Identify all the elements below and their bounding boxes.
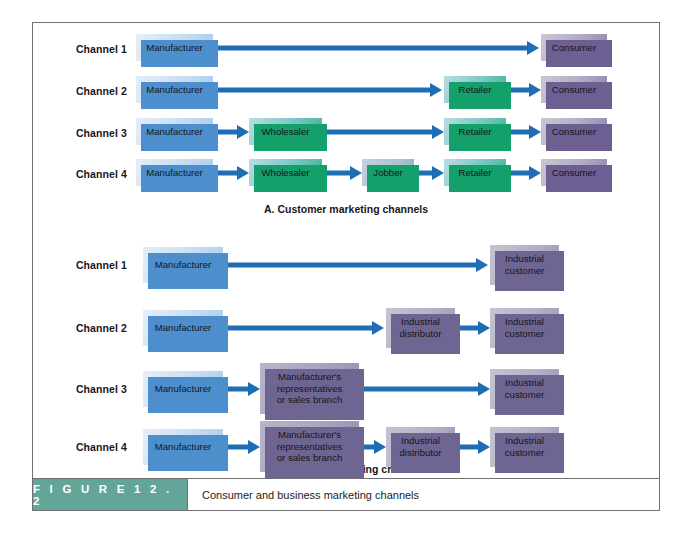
arrow-head xyxy=(430,83,442,97)
arrow-shaft xyxy=(223,326,373,331)
node-label-line1: Industrial xyxy=(401,316,440,328)
node-manufacturers-representatives: Manufacturer's representatives or sales … xyxy=(260,363,359,414)
node-industrial-distributor: Industrial distributor xyxy=(386,427,455,467)
node-industrial-customer: Industrial customer xyxy=(490,308,559,348)
node-manufacturer: Manufacturer xyxy=(143,310,223,346)
arrow-head xyxy=(237,125,249,139)
arrow-head xyxy=(478,321,490,335)
arrow-retailer-to-consumer xyxy=(506,83,541,97)
node-label-line2: customer xyxy=(505,447,544,459)
figure-number-badge: F I G U R E 1 2 . 2 xyxy=(33,479,188,510)
arrow-shaft xyxy=(213,46,528,51)
node-manufacturer: Manufacturer xyxy=(143,371,223,407)
node-label: Retailer xyxy=(458,126,491,138)
arrow-shaft xyxy=(322,130,433,135)
node-wholesaler: Wholesaler xyxy=(249,118,322,145)
node-industrial-distributor: Industrial distributor xyxy=(386,308,455,348)
node-jobber: Jobber xyxy=(362,159,414,186)
arrow-head xyxy=(478,382,490,396)
arrow-shaft xyxy=(213,88,431,93)
node-label: Manufacturer xyxy=(146,126,203,138)
arrow-shaft xyxy=(359,387,479,392)
arrow-head xyxy=(432,166,444,180)
node-label-line1: Manufacturer's xyxy=(278,429,341,441)
channel-label: Channel 2 xyxy=(51,71,127,111)
node-consumer: Consumer xyxy=(541,34,607,61)
node-retailer: Retailer xyxy=(444,76,506,103)
node-manufacturer: Manufacturer xyxy=(136,76,213,103)
arrow-head xyxy=(372,321,384,335)
node-label: Jobber xyxy=(373,167,402,179)
node-label-line1: Industrial xyxy=(505,253,544,265)
channel-label: Channel 1 xyxy=(51,241,127,289)
channel-label: Channel 2 xyxy=(51,304,127,352)
node-label: Manufacturer xyxy=(155,383,212,395)
node-label: Wholesaler xyxy=(262,126,310,138)
node-consumer: Consumer xyxy=(541,118,607,145)
arrow-head xyxy=(529,166,541,180)
node-manufacturer: Manufacturer xyxy=(136,159,213,186)
arrow-manufacturer-to-reps xyxy=(223,382,260,396)
node-label-line3: or sales branch xyxy=(277,452,343,464)
section-a-caption: A. Customer marketing channels xyxy=(33,203,659,215)
arrow-head xyxy=(529,83,541,97)
node-label: Manufacturer xyxy=(155,441,212,453)
node-label: Manufacturer xyxy=(155,259,212,271)
arrow-head xyxy=(478,440,490,454)
node-label: Manufacturer xyxy=(155,322,212,334)
node-label: Manufacturer xyxy=(146,84,203,96)
node-label-line2: distributor xyxy=(399,328,441,340)
figure-caption-text: Consumer and business marketing channels xyxy=(188,479,659,510)
arrow-distributor-to-customer xyxy=(455,440,490,454)
node-label: Consumer xyxy=(552,126,596,138)
node-retailer: Retailer xyxy=(444,159,506,186)
node-label: Manufacturer xyxy=(146,167,203,179)
node-label: Retailer xyxy=(458,84,491,96)
channel-label: Channel 3 xyxy=(51,113,127,153)
node-industrial-customer: Industrial customer xyxy=(490,427,559,467)
arrow-manufacturer-to-industrial-distributor xyxy=(223,321,384,335)
arrow-head xyxy=(476,258,488,272)
node-manufacturer: Manufacturer xyxy=(136,118,213,145)
node-label-line1: Manufacturer's xyxy=(278,371,341,383)
arrow-retailer-to-consumer xyxy=(506,125,541,139)
node-industrial-customer: Industrial customer xyxy=(490,245,559,285)
channel-label: Channel 1 xyxy=(51,29,127,69)
arrow-head xyxy=(374,440,386,454)
node-industrial-customer: Industrial customer xyxy=(490,369,559,409)
figure-caption-bar: F I G U R E 1 2 . 2 Consumer and busines… xyxy=(32,478,660,511)
channel-label: Channel 3 xyxy=(51,361,127,417)
arrow-head xyxy=(248,440,260,454)
arrow-wholesaler-to-retailer xyxy=(322,125,444,139)
node-label: Manufacturer xyxy=(146,42,203,54)
node-label: Retailer xyxy=(458,167,491,179)
arrow-head xyxy=(527,41,539,55)
arrow-head xyxy=(237,166,249,180)
arrow-wholesaler-to-jobber xyxy=(322,166,362,180)
node-label-line2: distributor xyxy=(399,447,441,459)
arrow-head xyxy=(350,166,362,180)
node-label-line3: or sales branch xyxy=(277,394,343,406)
node-label-line2: customer xyxy=(505,328,544,340)
arrow-head xyxy=(248,382,260,396)
node-label-line1: Industrial xyxy=(505,435,544,447)
node-label: Wholesaler xyxy=(262,167,310,179)
arrow-manufacturer-to-consumer xyxy=(213,41,539,55)
node-label-line1: Industrial xyxy=(401,435,440,447)
node-label-line2: customer xyxy=(505,389,544,401)
node-label-line2: customer xyxy=(505,265,544,277)
arrow-manufacturer-to-industrial-customer xyxy=(223,258,488,272)
node-label-line2: representatives xyxy=(277,441,343,453)
node-label-line1: Industrial xyxy=(505,377,544,389)
arrow-manufacturer-to-retailer xyxy=(213,83,442,97)
node-manufacturer: Manufacturer xyxy=(143,247,223,283)
node-label-line2: representatives xyxy=(277,383,343,395)
arrow-manufacturer-to-wholesaler xyxy=(213,125,249,139)
arrow-manufacturer-to-wholesaler xyxy=(213,166,249,180)
node-manufacturer: Manufacturer xyxy=(143,429,223,465)
node-manufacturer: Manufacturer xyxy=(136,34,213,61)
node-label: Consumer xyxy=(552,167,596,179)
arrow-shaft xyxy=(223,263,477,268)
arrow-head xyxy=(432,125,444,139)
node-manufacturers-representatives: Manufacturer's representatives or sales … xyxy=(260,421,359,472)
